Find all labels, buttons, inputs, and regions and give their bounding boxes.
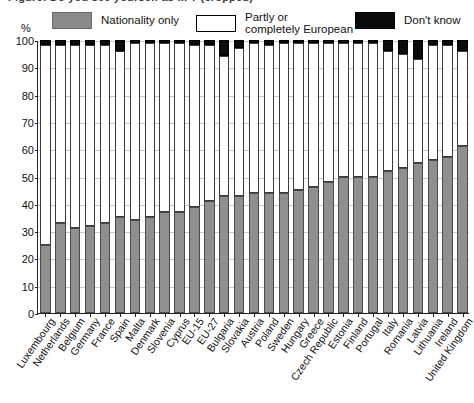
bar-segment-nationality-only[interactable] [428,160,438,313]
bar-column[interactable] [323,41,333,313]
bar-column[interactable] [55,41,65,313]
bar-segment-partly-or-completely-european[interactable] [100,45,110,222]
bar-segment-nationality-only[interactable] [383,171,393,313]
bar-segment-dont-know[interactable] [308,40,318,43]
bar-segment-dont-know[interactable] [398,40,408,54]
bar-column[interactable] [457,41,467,313]
bar-segment-dont-know[interactable] [130,40,140,43]
bar-segment-partly-or-completely-european[interactable] [383,51,393,171]
bar-column[interactable] [413,41,423,313]
bar-segment-dont-know[interactable] [413,40,423,59]
bar-segment-nationality-only[interactable] [70,228,80,313]
bar-segment-dont-know[interactable] [279,40,289,43]
bar-segment-dont-know[interactable] [442,40,452,45]
bar-segment-nationality-only[interactable] [130,220,140,313]
bar-segment-partly-or-completely-european[interactable] [55,45,65,222]
bar-segment-partly-or-completely-european[interactable] [234,48,244,195]
bar-column[interactable] [428,41,438,313]
bar-segment-nationality-only[interactable] [398,168,408,313]
bar-segment-partly-or-completely-european[interactable] [264,45,274,192]
bar-segment-partly-or-completely-european[interactable] [219,56,229,195]
bar-column[interactable] [204,41,214,313]
bar-segment-dont-know[interactable] [353,40,363,43]
bar-segment-nationality-only[interactable] [145,217,155,313]
bar-segment-nationality-only[interactable] [219,196,229,313]
bar-column[interactable] [308,41,318,313]
bar-segment-dont-know[interactable] [115,40,125,51]
bar-column[interactable] [145,41,155,313]
bar-segment-partly-or-completely-european[interactable] [85,45,95,225]
bar-column[interactable] [249,41,259,313]
bar-segment-partly-or-completely-european[interactable] [174,43,184,212]
bar-column[interactable] [442,41,452,313]
bar-segment-dont-know[interactable] [204,40,214,45]
bar-segment-partly-or-completely-european[interactable] [323,43,333,182]
bar-segment-dont-know[interactable] [100,40,110,45]
bar-column[interactable] [398,41,408,313]
bar-segment-partly-or-completely-european[interactable] [413,59,423,163]
bar-column[interactable] [338,41,348,313]
bar-segment-nationality-only[interactable] [174,212,184,313]
bar-column[interactable] [293,41,303,313]
bar-segment-nationality-only[interactable] [368,177,378,314]
bar-column[interactable] [189,41,199,313]
bar-column[interactable] [353,41,363,313]
bar-segment-nationality-only[interactable] [308,187,318,313]
bar-segment-partly-or-completely-european[interactable] [204,45,214,201]
bar-segment-dont-know[interactable] [338,40,348,43]
bar-segment-dont-know[interactable] [323,40,333,43]
bar-segment-partly-or-completely-european[interactable] [145,43,155,218]
bar-segment-dont-know[interactable] [457,40,467,51]
bar-column[interactable] [279,41,289,313]
bar-segment-partly-or-completely-european[interactable] [457,51,467,147]
bar-segment-nationality-only[interactable] [159,212,169,313]
bar-column[interactable] [130,41,140,313]
bar-segment-nationality-only[interactable] [338,177,348,314]
bar-segment-nationality-only[interactable] [264,193,274,313]
bar-segment-nationality-only[interactable] [204,201,214,313]
bar-segment-nationality-only[interactable] [115,217,125,313]
bar-segment-dont-know[interactable] [428,40,438,45]
bar-segment-partly-or-completely-european[interactable] [115,51,125,218]
bar-column[interactable] [264,41,274,313]
bar-segment-dont-know[interactable] [40,40,50,45]
bar-segment-dont-know[interactable] [383,40,393,51]
bar-segment-partly-or-completely-european[interactable] [159,43,169,212]
bar-segment-dont-know[interactable] [174,40,184,43]
bar-segment-nationality-only[interactable] [457,146,467,313]
bar-segment-partly-or-completely-european[interactable] [279,43,289,193]
bar-segment-dont-know[interactable] [368,40,378,43]
bar-segment-nationality-only[interactable] [55,223,65,313]
bar-segment-partly-or-completely-european[interactable] [442,45,452,157]
bar-segment-dont-know[interactable] [249,40,259,43]
bar-segment-nationality-only[interactable] [323,182,333,313]
bar-segment-dont-know[interactable] [293,40,303,43]
bar-column[interactable] [383,41,393,313]
bar-segment-partly-or-completely-european[interactable] [249,43,259,193]
bar-segment-dont-know[interactable] [234,40,244,48]
bar-segment-partly-or-completely-european[interactable] [189,45,199,206]
bar-segment-partly-or-completely-european[interactable] [308,43,318,188]
bar-segment-nationality-only[interactable] [442,157,452,313]
bar-segment-partly-or-completely-european[interactable] [368,43,378,177]
bar-segment-nationality-only[interactable] [279,193,289,313]
bar-column[interactable] [85,41,95,313]
bar-column[interactable] [115,41,125,313]
bar-column[interactable] [159,41,169,313]
bar-segment-nationality-only[interactable] [413,163,423,313]
bar-segment-dont-know[interactable] [159,40,169,43]
bar-column[interactable] [234,41,244,313]
bar-segment-nationality-only[interactable] [353,177,363,314]
bar-column[interactable] [368,41,378,313]
bar-column[interactable] [174,41,184,313]
bar-segment-nationality-only[interactable] [189,207,199,313]
bar-segment-partly-or-completely-european[interactable] [70,45,80,228]
bar-segment-partly-or-completely-european[interactable] [40,45,50,244]
bar-column[interactable] [219,41,229,313]
bar-segment-nationality-only[interactable] [234,196,244,313]
bar-segment-dont-know[interactable] [145,40,155,43]
bar-segment-nationality-only[interactable] [100,223,110,313]
bar-segment-partly-or-completely-european[interactable] [130,43,140,220]
bar-segment-nationality-only[interactable] [293,190,303,313]
bar-column[interactable] [70,41,80,313]
